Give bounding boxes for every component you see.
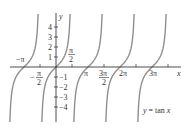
svg-text:π: π <box>37 69 41 78</box>
y-tick-label-neg1: −1 <box>59 73 68 82</box>
svg-text:3π: 3π <box>99 69 107 78</box>
tan-branch-0 <box>10 14 38 122</box>
svg-text:−: − <box>30 73 35 82</box>
x-tick-label-three-half-pi: 3π 2 <box>99 69 109 87</box>
tangent-graph: y x 4 3 2 1 −1 −2 −3 −4 −π − π 2 π 2 π 3… <box>0 0 186 130</box>
svg-text:2: 2 <box>102 78 106 87</box>
tan-branch-3 <box>106 14 134 122</box>
y-tick-label-neg2: −2 <box>59 83 68 92</box>
x-tick-label-neg-pi: −π <box>16 55 25 64</box>
y-tick-label-2: 2 <box>48 43 52 52</box>
x-tick-label-neg-half-pi: − π 2 <box>30 69 43 87</box>
y-axis-label: y <box>58 12 63 21</box>
y-tick-label-3: 3 <box>48 33 52 42</box>
svg-text:2: 2 <box>37 78 41 87</box>
svg-text:2: 2 <box>69 55 73 64</box>
y-tick-label-neg4: −4 <box>59 103 68 112</box>
x-tick-label-pi: π <box>84 69 88 78</box>
x-axis-label: x <box>176 69 181 78</box>
x-tick-label-three-pi: 3π <box>149 69 157 78</box>
tan-branch-2 <box>74 14 102 122</box>
y-tick-label-4: 4 <box>48 23 52 32</box>
y-tick-label-1: 1 <box>48 53 52 62</box>
x-tick-label-half-pi: π 2 <box>68 46 75 64</box>
svg-text:π: π <box>69 46 73 55</box>
x-tick-label-two-pi: 2π <box>119 69 127 78</box>
function-label: y = tan x <box>142 106 171 115</box>
y-tick-label-neg3: −3 <box>59 93 68 102</box>
